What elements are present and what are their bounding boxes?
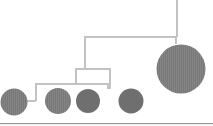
disc-2 <box>45 88 71 114</box>
mobile-diagram-svg <box>0 0 213 126</box>
disc-3 <box>76 89 100 113</box>
disc-5 <box>157 45 206 94</box>
ground-line <box>0 123 213 124</box>
top-suspension-cord <box>176 0 178 37</box>
mobile-diagram-canvas <box>0 0 213 126</box>
disc-4 <box>119 89 144 114</box>
disc-1 <box>1 89 28 116</box>
